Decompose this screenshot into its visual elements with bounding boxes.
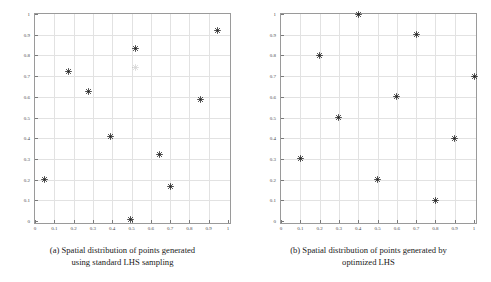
data-point-marker xyxy=(432,197,439,204)
caption-a-line1: (a) Spatial distribution of points gener… xyxy=(0,244,245,256)
gridline-horizontal xyxy=(35,35,230,36)
gridline-vertical xyxy=(378,14,379,223)
gridline-horizontal xyxy=(35,118,230,119)
y-tick xyxy=(281,14,284,15)
y-tick-label: 0.5 xyxy=(6,115,30,120)
y-tick-label: 1 xyxy=(252,12,276,17)
data-point-marker xyxy=(413,31,420,38)
y-tick xyxy=(35,97,38,98)
x-tick xyxy=(339,220,340,223)
x-tick-label: 1 xyxy=(227,226,230,231)
data-point-marker xyxy=(355,11,362,18)
y-tick xyxy=(281,221,284,222)
x-tick xyxy=(151,220,152,223)
gridline-vertical xyxy=(170,14,171,223)
plot-area-b xyxy=(280,13,477,224)
y-tick xyxy=(35,200,38,201)
gridline-horizontal xyxy=(35,76,230,77)
x-tick-label: 0.4 xyxy=(109,226,115,231)
plot-area-a xyxy=(34,13,231,224)
y-tick-label: 0.1 xyxy=(6,198,30,203)
data-point-marker xyxy=(471,73,478,80)
y-tick-label: 0.4 xyxy=(252,136,276,141)
y-tick xyxy=(35,76,38,77)
x-tick xyxy=(474,220,475,223)
gridline-vertical xyxy=(151,14,152,223)
y-tick xyxy=(281,97,284,98)
gridline-vertical xyxy=(435,14,436,223)
data-point-marker xyxy=(156,151,163,158)
panel-b: 00.10.20.30.40.50.60.70.80.9100.10.20.30… xyxy=(246,0,491,282)
caption-a-line2: using standard LHS sampling xyxy=(0,256,245,268)
x-tick-label: 0.6 xyxy=(394,226,400,231)
x-tick-label: 0.3 xyxy=(336,226,342,231)
x-tick xyxy=(170,220,171,223)
y-tick xyxy=(35,138,38,139)
data-point-marker xyxy=(41,176,48,183)
x-tick-label: 0.7 xyxy=(167,226,173,231)
x-tick-label: 0.3 xyxy=(90,226,96,231)
data-point-marker xyxy=(214,27,221,34)
x-tick-label: 0.1 xyxy=(51,226,57,231)
x-tick xyxy=(358,220,359,223)
data-point-marker xyxy=(297,155,304,162)
x-tick xyxy=(93,220,94,223)
gridline-vertical xyxy=(397,14,398,223)
x-tick-label: 0.5 xyxy=(374,226,380,231)
x-tick-label: 0.8 xyxy=(432,226,438,231)
gridline-horizontal xyxy=(281,200,476,201)
y-tick xyxy=(35,118,38,119)
caption-a: (a) Spatial distribution of points gener… xyxy=(0,244,245,268)
caption-b-line1: (b) Spatial distribution of points gener… xyxy=(246,244,491,256)
y-tick-label: 0 xyxy=(6,219,30,224)
data-point-marker xyxy=(374,176,381,183)
y-tick-label: 0.4 xyxy=(6,136,30,141)
gridline-vertical xyxy=(358,14,359,223)
y-tick-label: 0.2 xyxy=(6,177,30,182)
y-tick xyxy=(35,221,38,222)
x-tick xyxy=(74,220,75,223)
gridline-vertical xyxy=(93,14,94,223)
gridline-horizontal xyxy=(281,97,476,98)
x-tick-label: 0.4 xyxy=(355,226,361,231)
gridline-vertical xyxy=(209,14,210,223)
caption-b-line2: optimized LHS xyxy=(246,256,491,268)
caption-b: (b) Spatial distribution of points gener… xyxy=(246,244,491,268)
data-point-marker xyxy=(85,88,92,95)
x-tick xyxy=(209,220,210,223)
data-point-marker xyxy=(167,183,174,190)
gridline-horizontal xyxy=(35,138,230,139)
x-tick-label: 1 xyxy=(473,226,476,231)
y-tick-label: 0.2 xyxy=(252,177,276,182)
gridline-horizontal xyxy=(281,35,476,36)
x-tick xyxy=(378,220,379,223)
gridline-vertical xyxy=(416,14,417,223)
gridline-vertical xyxy=(455,14,456,223)
gridline-horizontal xyxy=(35,55,230,56)
y-tick xyxy=(281,200,284,201)
gridline-horizontal xyxy=(281,138,476,139)
x-tick-label: 0.7 xyxy=(413,226,419,231)
data-point-marker xyxy=(127,216,134,223)
data-point-marker xyxy=(335,114,342,121)
gridline-horizontal xyxy=(35,200,230,201)
y-tick-label: 0 xyxy=(252,219,276,224)
y-tick xyxy=(281,76,284,77)
data-point-marker xyxy=(107,133,114,140)
plot-a: 00.10.20.30.40.50.60.70.80.9100.10.20.30… xyxy=(0,0,245,240)
y-tick-label: 0.8 xyxy=(252,53,276,58)
y-tick xyxy=(281,180,284,181)
x-tick xyxy=(300,220,301,223)
x-tick-label: 0.5 xyxy=(128,226,134,231)
data-point-marker xyxy=(316,52,323,59)
gridline-vertical xyxy=(300,14,301,223)
x-tick xyxy=(189,220,190,223)
y-tick-label: 0.6 xyxy=(6,94,30,99)
y-tick xyxy=(281,118,284,119)
gridline-horizontal xyxy=(281,159,476,160)
y-tick xyxy=(281,138,284,139)
x-tick xyxy=(455,220,456,223)
y-tick-label: 0.9 xyxy=(252,32,276,37)
y-tick xyxy=(35,14,38,15)
y-tick xyxy=(281,55,284,56)
